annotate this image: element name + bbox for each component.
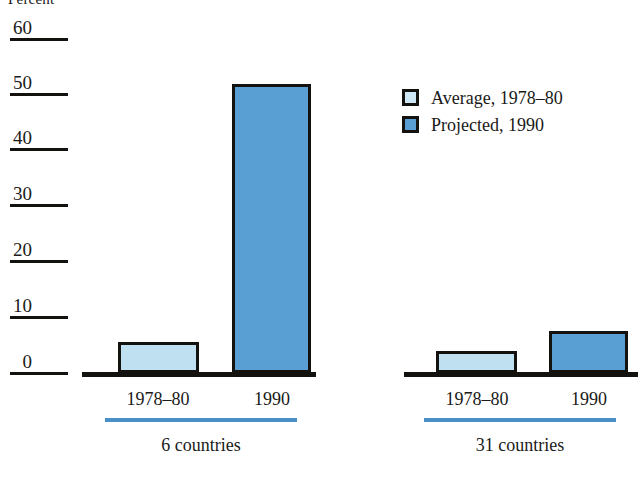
y-tick-rule-50 (10, 93, 68, 96)
y-tick-rule-60 (10, 38, 68, 41)
bar-group1-average-1978-80 (118, 342, 199, 373)
bar-group1-projected-1990 (232, 84, 311, 373)
y-tick-rule-20 (10, 260, 68, 263)
y-axis-title: Percent (8, 0, 54, 8)
group-caption-2: 31 countries (420, 436, 620, 454)
y-tick-label-10: 10 (13, 296, 32, 315)
bar-group2-average-1978-80 (436, 351, 517, 373)
chart-legend: Average, 1978–80 Projected, 1990 (402, 84, 563, 138)
group-rule-1 (105, 418, 297, 422)
bar-group2-projected-1990 (549, 331, 628, 373)
legend-label-average: Average, 1978–80 (431, 89, 563, 107)
y-tick-label-0: 0 (23, 352, 33, 371)
y-tick-rule-40 (10, 148, 68, 151)
legend-item-projected: Projected, 1990 (402, 111, 563, 138)
y-tick-rule-30 (10, 204, 68, 207)
x-label-group2-bar2: 1990 (539, 390, 638, 408)
x-label-group1-bar2: 1990 (222, 390, 322, 408)
legend-swatch-icon-average (402, 89, 419, 106)
group-caption-1: 6 countries (101, 436, 301, 454)
legend-label-projected: Projected, 1990 (431, 116, 544, 134)
legend-item-average: Average, 1978–80 (402, 84, 563, 111)
x-label-group2-bar1: 1978–80 (427, 390, 527, 408)
y-tick-label-30: 30 (13, 184, 32, 203)
bar-chart-figure: Percent 60 50 40 30 20 10 0 1978–80 1990… (0, 0, 638, 477)
y-tick-label-60: 60 (13, 18, 32, 37)
y-tick-label-20: 20 (13, 240, 32, 259)
y-tick-label-50: 50 (13, 73, 32, 92)
y-tick-rule-0 (10, 372, 68, 375)
legend-swatch-icon-projected (402, 116, 419, 133)
x-label-group1-bar1: 1978–80 (108, 390, 208, 408)
y-tick-label-40: 40 (13, 128, 32, 147)
group-rule-2 (424, 418, 616, 422)
y-tick-rule-10 (10, 316, 68, 319)
